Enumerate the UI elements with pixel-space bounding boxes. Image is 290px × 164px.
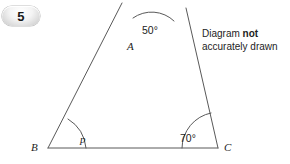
note-line2: accurately drawn	[202, 41, 278, 52]
vertex-label-A: A	[127, 41, 134, 52]
vertex-label-C: C	[224, 142, 231, 153]
angle-label-70-degrees: 70°	[180, 133, 196, 144]
angle-label-50-degrees: 50°	[142, 25, 158, 36]
not-accurately-drawn-note: Diagram not accurately drawn	[202, 27, 288, 53]
line-through-A-to-B	[48, 3, 122, 148]
worksheet-figure-panel: 5 A B C 50° p 70° Diagram not accurately…	[0, 0, 290, 164]
vertex-label-B: B	[31, 142, 38, 153]
note-line1-emphasis: not	[243, 28, 259, 39]
angle-arc-at-A	[133, 12, 174, 21]
note-line1-prefix: Diagram	[202, 28, 243, 39]
angle-label-p: p	[80, 134, 86, 145]
